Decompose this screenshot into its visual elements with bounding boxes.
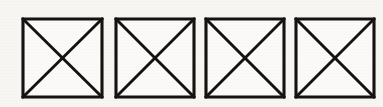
square-with-diagonals-2: [116, 19, 194, 97]
square-with-diagonals-1: [23, 19, 102, 97]
square-with-diagonals-3: [206, 19, 284, 97]
diagram-svg: [0, 0, 383, 107]
square-with-diagonals-4: [296, 19, 374, 97]
figure-canvas: Row of four squares with crossed diagona…: [0, 0, 383, 107]
